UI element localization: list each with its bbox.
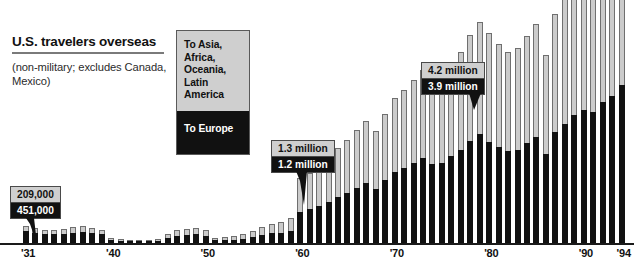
bar-column [99, 230, 105, 243]
bar-segment-europe [363, 183, 369, 243]
bar-column [505, 52, 511, 243]
bar-segment-europe [184, 235, 190, 243]
bar-segment-asia [401, 90, 407, 168]
bar-segment-europe [297, 212, 303, 243]
x-axis-labels: '31'40'50'60'70'80'90'94 [0, 247, 634, 267]
x-axis-tick-94: '94 [617, 247, 631, 259]
bar-column [429, 81, 435, 243]
bar-segment-asia [590, 0, 596, 112]
callout-pointer-icon [24, 218, 54, 246]
callout-box: 4.2 million 3.9 million [421, 62, 485, 95]
bar-column [344, 140, 350, 243]
bar-segment-europe [562, 124, 568, 243]
bar-segment-asia [505, 52, 511, 152]
bar-segment-europe [590, 112, 596, 243]
x-axis-tick-80: '80 [484, 247, 498, 259]
bar-segment-asia [278, 222, 284, 233]
bar-segment-europe [420, 158, 426, 243]
bar-column [524, 36, 530, 243]
bar-segment-europe [203, 236, 209, 244]
callout-gray-value: 209,000 [11, 187, 60, 202]
bar-column [401, 90, 407, 243]
bar-segment-asia [373, 131, 379, 189]
bar-segment-europe [486, 142, 492, 243]
callout-box: 209,000 451,000 [10, 186, 61, 219]
bar-segment-europe [392, 172, 398, 243]
bar-segment-europe [533, 137, 539, 243]
bar-segment-europe [269, 233, 275, 243]
bar-segment-asia [571, 0, 577, 115]
callout-box: 1.3 million 1.2 million [271, 140, 335, 173]
bar-segment-europe [335, 197, 341, 243]
bar-column [278, 222, 284, 243]
chart-root: U.S. travelers overseas (non-military; e… [0, 0, 634, 272]
bar-segment-europe [429, 164, 435, 243]
bar-segment-asia [269, 224, 275, 234]
bar-column [70, 227, 76, 243]
bar-segment-europe [600, 102, 606, 243]
bar-segment-europe [609, 96, 615, 243]
bar-segment-asia [524, 36, 530, 143]
bar-column [619, 0, 625, 243]
bar-segment-europe [316, 206, 322, 243]
bar-column [515, 48, 521, 243]
bar-segment-asia [543, 55, 549, 153]
bar-segment-europe [467, 141, 473, 243]
bar-segment-asia [600, 0, 606, 102]
x-axis-line [0, 243, 634, 245]
bar-segment-europe [326, 202, 332, 243]
callout-1931: 209,000 451,000 [10, 186, 61, 219]
bar-column [571, 0, 577, 243]
x-axis-tick-90: '90 [579, 247, 593, 259]
bar-column [373, 131, 379, 243]
bar-column [269, 224, 275, 243]
bar-segment-asia [382, 114, 388, 180]
bar-segment-asia [335, 148, 341, 197]
bar-segment-europe [354, 188, 360, 243]
bar-segment-europe [619, 85, 625, 243]
x-axis-tick-70: '70 [390, 247, 404, 259]
bar-column [203, 230, 209, 243]
bar-column [240, 234, 246, 243]
bar-column [600, 0, 606, 243]
bar-column [552, 14, 558, 243]
bar-column [174, 230, 180, 243]
bar-segment-europe [458, 150, 464, 243]
bar-segment-europe [448, 156, 454, 243]
bar-column [420, 70, 426, 243]
bar-segment-europe [524, 143, 530, 243]
bar-column [609, 0, 615, 243]
bar-segment-asia [533, 24, 539, 137]
bar-segment-europe [193, 234, 199, 243]
callout-gray-value: 4.2 million [422, 63, 484, 78]
bar-segment-europe [382, 180, 388, 243]
bar-segment-asia [581, 0, 587, 110]
bar-column [392, 98, 398, 243]
bar-column [543, 55, 549, 243]
bar-segment-asia [363, 121, 369, 183]
bar-segment-asia [515, 48, 521, 150]
bar-segment-europe [439, 163, 445, 243]
bar-segment-europe [552, 132, 558, 243]
bar-column [288, 218, 294, 243]
bar-segment-asia [354, 130, 360, 188]
bar-segment-europe [288, 231, 294, 243]
x-axis-tick-60: '60 [295, 247, 309, 259]
bar-segment-asia [259, 227, 265, 235]
bar-segment-europe [543, 154, 549, 243]
bar-segment-asia [344, 140, 350, 193]
bar-column [382, 114, 388, 243]
callout-black-value: 451,000 [11, 202, 60, 218]
callout-1980: 4.2 million 3.9 million [421, 62, 485, 95]
bar-column [590, 0, 596, 243]
bar-column [411, 80, 417, 243]
bar-segment-asia [486, 33, 492, 142]
bar-column [496, 44, 502, 243]
bar-column [439, 77, 445, 243]
callout-pointer-icon [469, 93, 491, 113]
bar-segment-europe [80, 232, 86, 243]
bar-segment-europe [411, 163, 417, 243]
bar-column [335, 148, 341, 243]
bar-segment-europe [581, 110, 587, 243]
bar-column [581, 0, 587, 243]
